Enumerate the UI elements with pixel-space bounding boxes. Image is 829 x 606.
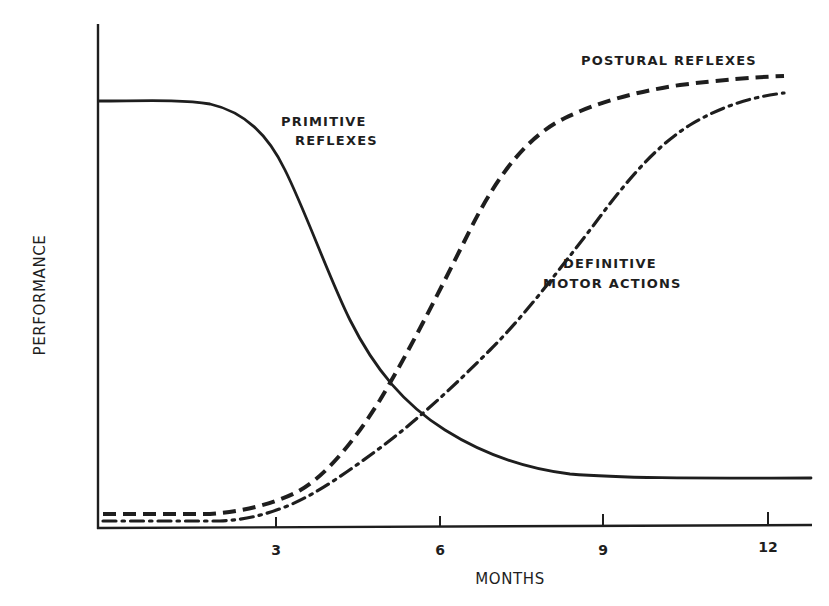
y-axis-title: PERFORMANCE [31, 235, 49, 356]
primitive-reflexes-label-line1: PRIMITIVE [281, 114, 367, 129]
primitive-reflexes-label-line2: REFLEXES [295, 133, 378, 148]
tick-label-12: 12 [758, 539, 777, 555]
definitive-motor-actions-curve [103, 93, 784, 521]
definitive-motor-actions-label-line2: MOTOR ACTIONS [543, 276, 682, 291]
x-axis-title: MONTHS [475, 570, 545, 588]
tick-label-3: 3 [271, 542, 281, 558]
tick-label-9: 9 [598, 542, 608, 558]
chart: 3 6 9 12 MONTHS PERFORMANCE PRIMITIVE RE… [0, 0, 829, 606]
primitive-reflexes-curve [99, 101, 811, 478]
postural-reflexes-curve [103, 76, 784, 514]
x-axis [97, 525, 812, 528]
definitive-motor-actions-label-line1: DEFINITIVE [563, 256, 657, 271]
postural-reflexes-label: POSTURAL REFLEXES [581, 53, 757, 68]
tick-label-6: 6 [435, 542, 445, 558]
